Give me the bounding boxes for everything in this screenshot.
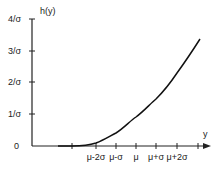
x-tick-label: μ-2σ [87,152,106,162]
x-axis-arrow-icon [203,143,211,149]
y-axis-label: h(y) [40,6,56,16]
y-tick-label: 2/σ [8,77,22,87]
x-axis-label: y [203,129,208,139]
x-tick-labels: μ-2σ μ-σ μ μ+σ μ+2σ [87,152,188,162]
x-tick-label: μ+σ [148,152,164,162]
h-curve [58,39,200,146]
x-tick-label: μ+2σ [166,152,187,162]
y-tick-label: 1/σ [8,109,22,119]
x-tick-label: μ [133,152,138,162]
y-tick-label: 3/σ [8,46,22,56]
y-tick-label: 4/σ [8,14,22,24]
y-tick-labels: 4/σ 3/σ 2/σ 1/σ 0 [8,14,22,151]
chart: 4/σ 3/σ 2/σ 1/σ 0 h(y) μ-2σ μ-σ μ μ+σ μ+… [0,0,219,170]
y-tick-label: 0 [14,141,19,151]
x-tick-label: μ-σ [109,152,123,162]
